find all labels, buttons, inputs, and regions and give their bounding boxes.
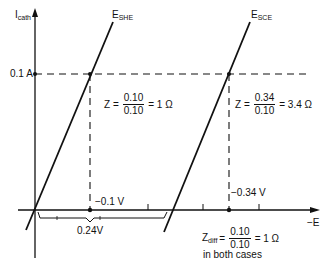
sce-label-sub: SCE (258, 14, 272, 21)
z-sce-denominator: 0.10 (255, 105, 274, 116)
z-sce-result: = 3.4 Ω (279, 100, 312, 110)
she-voltage-label: −0.1 V (95, 197, 124, 207)
x-axis-label: −E (307, 218, 320, 228)
sce-axis-point (227, 208, 231, 212)
current-marker (33, 72, 37, 76)
z-she-numerator: 0.10 (123, 93, 144, 105)
y-label-sub: cath (18, 14, 31, 21)
she-label-sub: SHE (119, 14, 133, 21)
z-diff-result: = 1 Ω (255, 234, 279, 244)
z-diff-prefix: Zdiff (202, 233, 217, 244)
z-diff-eq: = (219, 234, 225, 244)
z-sce-equation: Z = 0.340.10 = 3.4 Ω (235, 93, 312, 116)
z-she-fraction: 0.100.10 (123, 93, 144, 116)
z-sce-numerator: 0.34 (254, 93, 275, 105)
sce-intersection (227, 72, 231, 76)
z-she-result: = 1 Ω (148, 100, 172, 110)
z-diff-numerator: 0.10 (229, 227, 250, 239)
she-axis-point (88, 208, 92, 212)
sce-curve (164, 22, 250, 232)
z-she-denominator: 0.10 (124, 105, 143, 116)
y-axis-arrow-icon (32, 8, 38, 17)
sce-label-main: E (251, 9, 258, 20)
z-sce-fraction: 0.340.10 (254, 93, 275, 116)
z-she-equation: Z = 0.100.10 = 1 Ω (104, 93, 173, 116)
current-level-label: 0.1 A (10, 69, 33, 79)
z-she-prefix: Z = (104, 100, 119, 110)
z-diff-sub: diff (208, 237, 217, 244)
y-axis-label: Icath (15, 10, 31, 21)
offset-label: 0.24V (77, 226, 103, 236)
diagram-canvas (0, 0, 329, 262)
she-intersection (88, 72, 92, 76)
z-diff-fraction: 0.100.10 (229, 227, 250, 250)
she-curve-label: ESHE (112, 10, 133, 21)
z-sce-prefix: Z = (235, 100, 250, 110)
z-diff-equation: Zdiff = 0.100.10 = 1 Ω (202, 227, 279, 250)
sce-curve-label: ESCE (251, 10, 272, 21)
z-diff-note: in both cases (203, 250, 262, 260)
x-axis-arrow-icon (310, 207, 320, 213)
sce-voltage-label: −0.34 V (231, 188, 266, 198)
she-label-main: E (112, 9, 119, 20)
